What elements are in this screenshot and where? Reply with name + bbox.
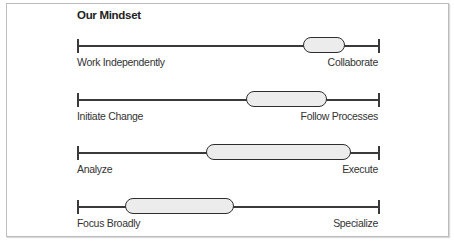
- scale-tick-left: [77, 39, 79, 53]
- scale-tick-left: [77, 200, 79, 214]
- scale-line: [77, 99, 378, 101]
- scale-label-left: Initiate Change: [77, 110, 143, 122]
- scale-label-right: Follow Processes: [301, 110, 378, 122]
- scale-label-left: Analyze: [77, 163, 112, 175]
- scale-label-left: Focus Broadly: [77, 217, 140, 229]
- scale-range-pill: [246, 91, 327, 107]
- scale-range-pill: [125, 198, 233, 214]
- scale-tick-left: [77, 146, 79, 160]
- scale-range-pill: [206, 144, 350, 160]
- scale-tick-right: [378, 39, 380, 53]
- scale-range-pill: [303, 37, 345, 53]
- scale-tick-right: [378, 93, 380, 107]
- scale-label-left: Work Independently: [77, 56, 165, 68]
- diagram-title: Our Mindset: [77, 9, 141, 21]
- scale-label-right: Specialize: [333, 217, 378, 229]
- scale-tick-right: [378, 146, 380, 160]
- scale-tick-right: [378, 200, 380, 214]
- scale-tick-left: [77, 93, 79, 107]
- scale-label-right: Execute: [342, 163, 378, 175]
- scale-label-right: Collaborate: [328, 56, 378, 68]
